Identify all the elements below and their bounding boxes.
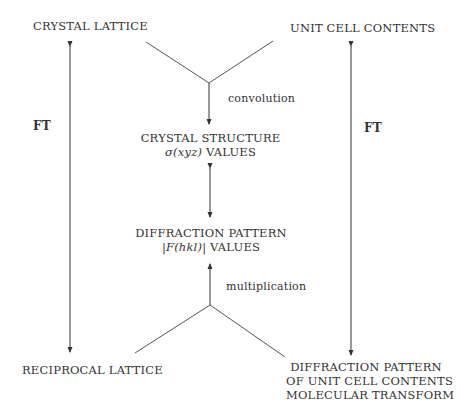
multiplication-edge-left — [135, 305, 210, 353]
node-diffraction-unit-cell: DIFFRACTION PATTERN OF UNIT CELL CONTENT… — [286, 360, 446, 402]
node-unit-cell-contents: UNIT CELL CONTENTS — [290, 21, 435, 35]
node-crystal-lattice: CRYSTAL LATTICE — [33, 19, 148, 33]
crystal-structure-title: CRYSTAL STRUCTURE — [140, 131, 281, 145]
diffraction-pattern-title: DIFFRACTION PATTERN — [135, 226, 287, 240]
edge-label-ft-left: FT — [33, 119, 51, 133]
node-diffraction-pattern: DIFFRACTION PATTERN |F(hkl)| VALUES — [135, 226, 287, 254]
edge-label-ft-right: FT — [364, 121, 382, 135]
diagram-edges — [0, 0, 461, 413]
edge-label-convolution: convolution — [228, 92, 295, 106]
crystal-structure-values: σ(xyz) VALUES — [140, 145, 281, 159]
diffraction-pattern-values: |F(hkl)| VALUES — [135, 240, 287, 254]
multiplication-edge-right — [210, 305, 285, 357]
sigma-xyz: σ(xyz) — [165, 145, 202, 159]
node-reciprocal-lattice: RECIPROCAL LATTICE — [22, 363, 163, 377]
F-hkl: |F(hkl)| — [162, 240, 206, 254]
edge-label-multiplication: multiplication — [226, 280, 306, 294]
convolution-edge-right — [209, 41, 273, 83]
node-crystal-structure: CRYSTAL STRUCTURE σ(xyz) VALUES — [140, 131, 281, 159]
convolution-edge-left — [146, 42, 209, 83]
